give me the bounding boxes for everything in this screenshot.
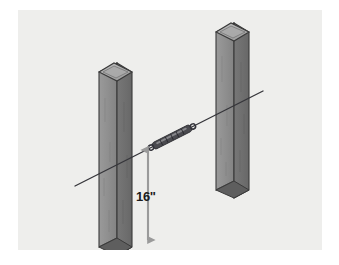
scene-illustration (18, 10, 322, 250)
right-post-dark-face (234, 23, 249, 198)
left-post-dark-face (117, 63, 132, 250)
left-post-light-face (99, 63, 117, 247)
left-post (99, 63, 132, 250)
dimension-label: 16" (136, 190, 156, 203)
figure-root: 16" (0, 0, 339, 265)
right-post (216, 23, 249, 198)
illustration-panel: 16" (18, 10, 322, 250)
line-tensioner-icon (147, 122, 197, 152)
